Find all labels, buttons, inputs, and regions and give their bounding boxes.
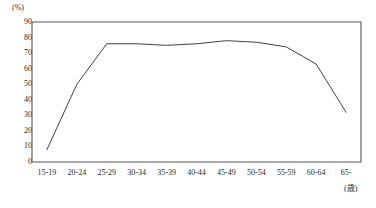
axis-frame	[32, 22, 361, 162]
data-series-line	[47, 41, 346, 150]
line-chart: (%) 9080706050403020100 15-1920-2425-293…	[0, 0, 376, 208]
plot-area	[0, 0, 376, 208]
